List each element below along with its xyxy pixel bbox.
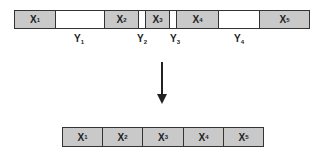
compacted-segment-x1: X1	[63, 128, 103, 146]
segment-x4: X4	[177, 11, 219, 28]
segment-x5: X5	[260, 11, 309, 28]
segment-sub: 1	[37, 17, 40, 23]
gap-label-y2: Y2	[137, 33, 147, 45]
gap-y3	[170, 11, 177, 28]
gap-label-sub: 4	[241, 39, 244, 45]
segment-sub: 2	[124, 134, 127, 140]
segment-label: X	[30, 14, 37, 25]
segment-label: X	[152, 14, 159, 25]
gap-label-y1: Y1	[74, 33, 84, 45]
segment-sub: 2	[123, 17, 126, 23]
segment-label: X	[158, 132, 165, 143]
segment-label: X	[279, 14, 286, 25]
gap-label-text: Y	[170, 33, 177, 44]
segment-x3: X3	[146, 11, 170, 28]
segment-label: X	[116, 14, 123, 25]
segment-sub: 5	[286, 17, 289, 23]
gap-label-text: Y	[74, 33, 81, 44]
gap-label-y4: Y4	[234, 33, 244, 45]
compacted-segment-x5: X5	[224, 128, 263, 146]
segment-sub: 4	[199, 17, 202, 23]
arrow-head-icon	[157, 94, 167, 104]
top-bar-fragmented: X1 X2 X3 X4 X5	[14, 10, 310, 29]
segment-sub: 4	[205, 134, 208, 140]
segment-sub: 3	[165, 134, 168, 140]
segment-x1: X1	[15, 11, 56, 28]
segment-label: X	[117, 132, 124, 143]
gap-y1	[56, 11, 105, 28]
segment-label: X	[77, 132, 84, 143]
compacted-segment-x3: X3	[143, 128, 184, 146]
gap-label-text: Y	[137, 33, 144, 44]
segment-x2: X2	[105, 11, 139, 28]
gap-label-y3: Y3	[170, 33, 180, 45]
gap-y2	[139, 11, 146, 28]
segment-label: X	[192, 14, 199, 25]
compacted-segment-x4: X4	[184, 128, 224, 146]
compacted-segment-x2: X2	[103, 128, 143, 146]
segment-label: X	[238, 132, 245, 143]
segment-sub: 5	[245, 134, 248, 140]
gap-label-sub: 3	[177, 39, 180, 45]
segment-label: X	[198, 132, 205, 143]
gap-y4	[219, 11, 260, 28]
segment-sub: 3	[159, 17, 162, 23]
bottom-bar-compacted: X1 X2 X3 X4 X5	[62, 127, 264, 147]
gap-label-sub: 2	[144, 39, 147, 45]
gap-label-text: Y	[234, 33, 241, 44]
segment-sub: 1	[84, 134, 87, 140]
gap-label-sub: 1	[81, 39, 84, 45]
down-arrow-icon	[161, 62, 163, 96]
